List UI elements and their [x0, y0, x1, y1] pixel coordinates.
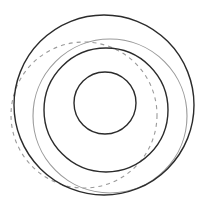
diagram-background	[0, 0, 209, 216]
circles-diagram	[0, 0, 209, 216]
figure-container	[0, 0, 209, 216]
